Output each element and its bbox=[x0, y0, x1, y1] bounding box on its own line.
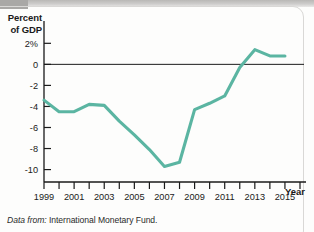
x-tick-label: 2013 bbox=[245, 192, 265, 202]
scan-band bbox=[0, 0, 314, 7]
y-tick-label: -2 bbox=[30, 81, 38, 91]
x-tick-label: 1999 bbox=[34, 192, 54, 202]
y-tick-label: -6 bbox=[30, 123, 38, 133]
source-caption-lead: Data from: bbox=[7, 215, 47, 225]
y-tick-label: -4 bbox=[30, 102, 38, 112]
figure-container: 2%0-2-4-6-8-1019992001200320052007200920… bbox=[0, 0, 314, 232]
y-axis-title-line1: Percent bbox=[4, 12, 42, 24]
x-tick-label: 2011 bbox=[215, 192, 235, 202]
x-tick-label: 2007 bbox=[154, 192, 174, 202]
source-caption: Data from: International Monetary Fund. bbox=[7, 215, 157, 225]
x-tick-label: 2003 bbox=[94, 192, 114, 202]
y-axis-title-line2: of GDP bbox=[4, 24, 42, 36]
y-tick-label: -8 bbox=[30, 144, 38, 154]
line-chart: 2%0-2-4-6-8-1019992001200320052007200920… bbox=[0, 7, 314, 203]
x-tick-label: 2005 bbox=[124, 192, 144, 202]
x-tick-label: 2009 bbox=[184, 192, 204, 202]
x-tick-label: 2001 bbox=[64, 192, 84, 202]
source-caption-text: International Monetary Fund. bbox=[49, 215, 157, 225]
y-tick-label: 2% bbox=[25, 39, 38, 49]
y-tick-label: -10 bbox=[25, 165, 38, 175]
data-line bbox=[44, 50, 285, 167]
y-tick-label: 0 bbox=[33, 60, 38, 70]
y-axis-title: Percent of GDP bbox=[4, 12, 42, 35]
plot-area: 2%0-2-4-6-8-1019992001200320052007200920… bbox=[0, 7, 314, 203]
x-axis-title: Year bbox=[285, 186, 305, 197]
